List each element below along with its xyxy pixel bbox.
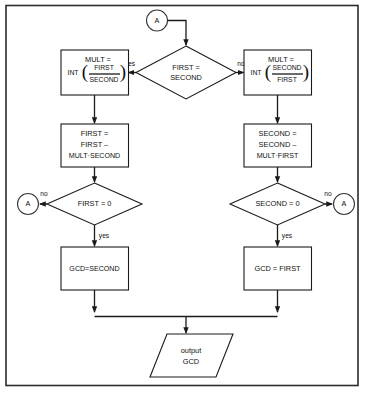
- output-gcd-parallelogram: [150, 334, 233, 377]
- decision-top-line1: FIRST =: [172, 63, 200, 72]
- edge-connector-to-decision: [168, 21, 187, 46]
- gcd-right-label: GCD = FIRST: [254, 264, 301, 273]
- process-right-line2: SECOND –: [259, 140, 298, 149]
- gcd-left-label: GCD=SECOND: [69, 265, 119, 273]
- mult-left-paren-open: (: [82, 61, 88, 83]
- output-line1: output: [181, 346, 202, 355]
- connector-left-label: A: [26, 199, 31, 208]
- process-left-line3: MULT·SECOND: [69, 152, 121, 160]
- label-left-no: no: [40, 190, 48, 197]
- mult-left-numerator: FIRST: [94, 64, 114, 71]
- mult-right-prefix: INT: [251, 69, 262, 76]
- mult-left-denominator: SECOND: [89, 76, 118, 83]
- mult-right-numerator: SECOND: [272, 64, 301, 71]
- mult-left-line1: MULT =: [85, 55, 111, 64]
- connector-top-label: A: [155, 16, 160, 25]
- decision-right-label: SECOND = 0: [255, 199, 299, 208]
- mult-left-prefix: INT: [68, 69, 79, 76]
- label-right-no: no: [324, 190, 332, 197]
- mult-right-paren-open: (: [265, 61, 271, 83]
- process-left-line1: FIRST =: [81, 129, 109, 138]
- mult-right-line1: MULT =: [268, 55, 294, 64]
- decision-top-line2: SECOND: [170, 73, 202, 82]
- connector-right-label: A: [342, 199, 347, 208]
- mult-right-denominator: FIRST: [277, 76, 297, 83]
- flowchart-canvas: A FIRST = SECOND yes no MULT = INT ( FIR…: [0, 0, 365, 397]
- mult-left-paren-close: ): [120, 61, 126, 83]
- label-right-yes: yes: [282, 232, 293, 240]
- output-line2: GCD: [183, 357, 199, 366]
- process-left-line2: FIRST –: [81, 140, 109, 149]
- label-left-yes: yes: [99, 232, 110, 240]
- mult-right-paren-close: ): [303, 61, 309, 83]
- flowchart-page: A FIRST = SECOND yes no MULT = INT ( FIR…: [0, 0, 365, 397]
- process-right-line1: SECOND =: [259, 129, 297, 138]
- decision-left-label: FIRST = 0: [78, 199, 112, 208]
- process-right-line3: MULT·FIRST: [257, 152, 299, 160]
